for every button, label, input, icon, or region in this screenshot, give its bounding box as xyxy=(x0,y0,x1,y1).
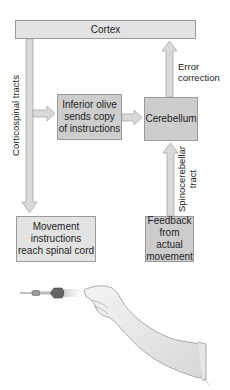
cerebellum-label: Cerebellum xyxy=(145,113,196,125)
inferior-olive-label: Inferior olive sends copy of instruction… xyxy=(59,99,121,135)
cortex-box: Cortex xyxy=(15,20,196,39)
cortex-label: Cortex xyxy=(91,24,120,36)
spinocerebellar-label: Spinocerebellar tract xyxy=(176,144,198,214)
movement-box: Movement instructions reach spinal cord xyxy=(16,216,96,262)
branch-to-olive-arrow xyxy=(33,106,55,121)
error-correction-arrow xyxy=(162,41,177,97)
arm-icon xyxy=(84,286,210,386)
corticospinal-arrow xyxy=(22,39,37,213)
arm-throwing-dart-illustration xyxy=(0,278,230,388)
inferior-olive-box: Inferior olive sends copy of instruction… xyxy=(57,94,122,140)
dart-icon xyxy=(20,288,82,298)
corticospinal-label: Corticospinal tracts xyxy=(10,68,21,164)
feedback-box: Feedback from actual movement xyxy=(145,216,194,262)
movement-label: Movement instructions reach spinal cord xyxy=(18,221,94,257)
cerebellum-box: Cerebellum xyxy=(144,97,198,141)
error-correction-label: Error correction xyxy=(178,61,220,83)
feedback-label: Feedback from actual movement xyxy=(146,215,193,263)
olive-to-cerebellum-arrow xyxy=(122,110,142,125)
